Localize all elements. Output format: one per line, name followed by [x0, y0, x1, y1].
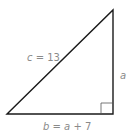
triangle: [7, 10, 113, 114]
hypotenuse-label: c = 13: [27, 52, 60, 63]
right-triangle-diagram: c = 13 a b = a + 7: [0, 0, 129, 134]
hypotenuse-value: = 13: [33, 52, 60, 63]
right-angle-marker: [101, 103, 113, 114]
vertical-leg-label: a: [120, 70, 126, 81]
horizontal-leg-label: b = a + 7: [43, 121, 91, 132]
